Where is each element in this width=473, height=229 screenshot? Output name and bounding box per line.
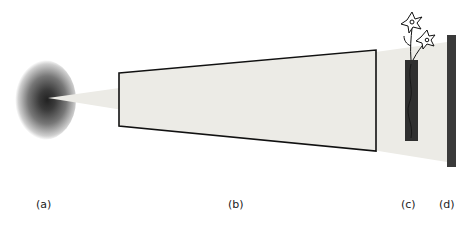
label-c: (c) bbox=[401, 198, 416, 211]
label-a: (a) bbox=[36, 198, 51, 211]
projection-volume bbox=[119, 50, 376, 151]
label-d: (d) bbox=[439, 198, 455, 211]
label-b: (b) bbox=[228, 198, 244, 211]
optical-diagram bbox=[0, 0, 473, 229]
screen bbox=[447, 35, 456, 167]
